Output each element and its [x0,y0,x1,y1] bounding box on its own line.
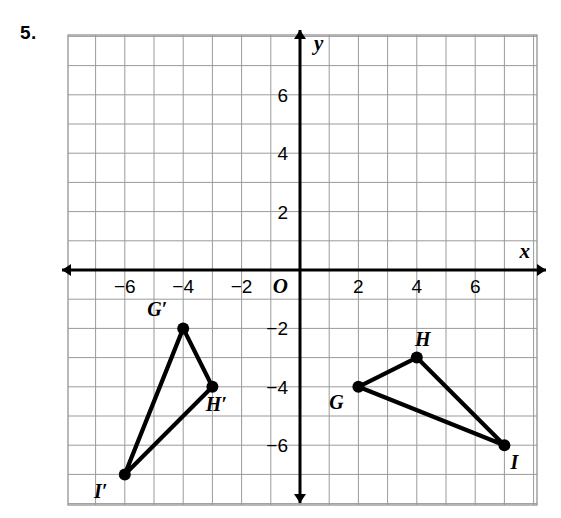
vertex-label: H′ [205,393,227,415]
vertex-point [119,468,131,480]
y-tick-label: −4 [266,377,288,398]
vertex-point [411,352,423,364]
y-tick-label: 6 [277,85,288,106]
vertex-label: G [329,391,344,413]
x-tick-label: 2 [353,276,364,297]
y-tick-label: −2 [266,318,288,339]
y-tick-label: 2 [277,202,288,223]
vertex-point [498,439,510,451]
vertex-point [352,381,364,393]
x-tick-label: −2 [231,276,253,297]
y-tick-label: −6 [266,435,288,456]
problem-number: 5. [20,22,37,44]
axis-arrowhead [294,494,306,503]
vertex-label: I′ [93,480,107,502]
x-tick-label: −4 [172,276,194,297]
vertex-point [177,322,189,334]
x-tick-label: −6 [114,276,136,297]
shape-outline [358,358,504,446]
vertex-label: I [510,451,520,473]
vertex-label: G′ [147,298,167,320]
origin-label: O [273,274,288,298]
axis-arrowhead [537,264,546,276]
vertex-point [206,381,218,393]
axis-arrowhead [62,264,71,276]
vertex-label: H [414,328,432,350]
coordinate-plane: xy −6−4−2246642−2−4−6O GHIG′H′I′ [0,0,561,518]
x-tick-label: 4 [412,276,423,297]
plotted-shapes [119,322,511,480]
x-tick-label: 6 [470,276,481,297]
shape-outline [125,328,213,474]
y-tick-label: 4 [277,143,288,164]
graph-figure: 5. xy −6−4−2246642−2−4−6O GHIG′H′I′ [0,0,561,518]
vertex-labels: GHIG′H′I′ [93,298,519,502]
x-axis-label: x [519,239,531,263]
